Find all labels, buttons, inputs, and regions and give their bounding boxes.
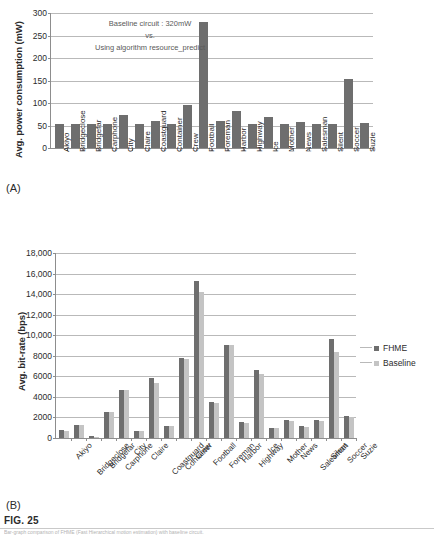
x-axis-tick-label: Suzie [368, 132, 377, 152]
y-axis-tick-label: 250 [33, 31, 47, 41]
grid-line [56, 356, 356, 357]
x-axis-tick-mark [356, 438, 357, 441]
x-axis-tick-label: Claire [143, 131, 152, 152]
y-axis-tick-label: 300 [33, 8, 47, 18]
bar [64, 431, 69, 438]
x-axis-tick-mark [266, 438, 267, 441]
legend-label: FHME [383, 343, 407, 353]
x-axis-tick-label: Soccer [352, 127, 361, 152]
legend-item[interactable]: FHME [374, 343, 407, 353]
x-axis-tick-mark [161, 438, 162, 441]
grid-line [51, 58, 373, 59]
bar [349, 417, 354, 438]
x-axis-tick-label: Football [207, 124, 216, 152]
x-axis-tick-mark [101, 438, 102, 441]
bar [154, 383, 159, 438]
plot-area [56, 253, 356, 438]
x-axis-tick-mark [251, 438, 252, 441]
legend-swatch-icon [374, 346, 379, 351]
y-axis-tick-label: 50 [38, 121, 47, 131]
x-axis-tick-mark [206, 438, 207, 441]
bar [139, 431, 144, 438]
annotation-line: vs. [70, 30, 230, 42]
x-axis-tick-label: Bridgeclose [78, 110, 87, 152]
y-axis-tick-label: 6000 [33, 371, 52, 381]
x-axis-tick-label: Coastguard [159, 111, 168, 152]
x-axis-tick-mark [281, 438, 282, 441]
x-axis-tick-mark [71, 438, 72, 441]
y-axis-tick-label: 10,000 [26, 330, 52, 340]
x-axis-tick-mark [221, 438, 222, 441]
grid-line [56, 253, 356, 254]
bar [319, 421, 324, 438]
bar [304, 427, 309, 438]
grid-line [56, 274, 356, 275]
x-axis-tick-label: Ice [271, 141, 280, 152]
grid-line [56, 315, 356, 316]
bar [334, 352, 339, 438]
bar [214, 403, 219, 438]
bar [124, 390, 129, 438]
bar [274, 428, 279, 438]
x-axis-tick-label: Harbor [239, 128, 248, 152]
x-axis-tick-label: Silent [336, 132, 345, 152]
y-axis-label: Avg. bit-rate (bps) [16, 312, 27, 391]
grid-line [56, 397, 356, 398]
figure-25: Avg. power consumption (mW)0501001502002… [0, 0, 434, 535]
y-axis-tick-label: 12,000 [26, 310, 52, 320]
legend-label: Baseline [383, 358, 416, 368]
figure-caption: Bar-graph comparison of FHME (Fast Hiera… [4, 529, 434, 535]
y-axis-tick-label: 4000 [33, 392, 52, 402]
y-axis-line [50, 13, 51, 148]
y-axis-tick-label: 16,000 [26, 269, 52, 279]
panel-b-tag: (B) [6, 499, 21, 511]
x-axis-tick-mark [116, 438, 117, 441]
x-axis-tick-mark [146, 438, 147, 441]
panel-a-power-chart: Avg. power consumption (mW)0501001502002… [0, 0, 434, 215]
y-axis-tick-label: 18,000 [26, 248, 52, 258]
grid-line [51, 13, 373, 14]
y-axis-tick-label: 150 [33, 76, 47, 86]
x-axis-tick-mark [311, 438, 312, 441]
x-axis-tick-label: City [126, 138, 135, 152]
y-axis-tick-mark [53, 438, 56, 439]
bar [229, 345, 234, 438]
x-axis-tick-label: Highway [255, 121, 264, 152]
figure-label: FIG. 25 [4, 515, 39, 526]
bar [184, 359, 189, 438]
legend-leader-line [360, 362, 372, 363]
y-axis-tick-label: 0 [42, 143, 47, 153]
x-axis-tick-label: Salesman [320, 116, 329, 152]
x-axis-tick-mark [296, 438, 297, 441]
legend-item[interactable]: Baseline [374, 358, 416, 368]
bar [94, 437, 99, 438]
x-axis-tick-mark [191, 438, 192, 441]
panel-b-bitrate-chart: Avg. bit-rate (bps)0200040006000800010,0… [0, 243, 434, 513]
x-axis-tick-mark [86, 438, 87, 441]
x-axis-tick-label: Crew [191, 133, 200, 152]
y-axis-tick-label: 200 [33, 53, 47, 63]
x-axis-tick-label: Carphone [110, 117, 119, 152]
bar [169, 426, 174, 438]
grid-line [56, 417, 356, 418]
panel-a-tag: (A) [6, 182, 21, 194]
annotation-line: Baseline circuit : 320mW [70, 18, 230, 30]
x-axis-tick-label: Container [175, 117, 184, 152]
y-axis-tick-label: 0 [47, 433, 52, 443]
y-axis-tick-mark [48, 148, 51, 149]
y-axis-line [55, 253, 56, 438]
grid-line [56, 335, 356, 336]
x-axis-tick-label: News [304, 132, 313, 152]
annotation-line: Using algorithm resource_predict [70, 42, 230, 54]
x-axis-tick-label: Bridgefar [94, 120, 103, 152]
x-axis-tick-label: Akiyo [73, 441, 93, 461]
grid-line [51, 103, 373, 104]
y-axis-tick-label: 8000 [33, 351, 52, 361]
bar [199, 292, 204, 438]
grid-line [56, 376, 356, 377]
bar [289, 421, 294, 438]
bar [244, 423, 249, 438]
grid-line [56, 294, 356, 295]
y-axis-tick-label: 100 [33, 98, 47, 108]
legend-leader-line [360, 347, 372, 348]
